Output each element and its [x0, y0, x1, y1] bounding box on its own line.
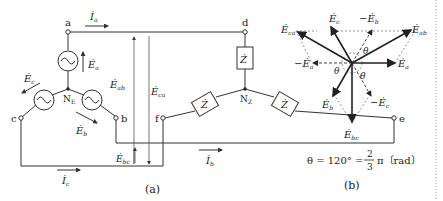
terminal-c — [19, 116, 23, 120]
circuit-diagram-a: a d İa Ėa NE c Ėc b Ėb — [11, 11, 405, 196]
node-b-label: b — [121, 113, 127, 124]
terminal-b — [114, 116, 118, 120]
theta-label-1: θ — [363, 46, 369, 56]
ac-symbol-icon — [61, 58, 75, 64]
phasor-neg-eb-label: −Ėb — [359, 13, 379, 25]
emf-ec-label: Ėc — [23, 73, 35, 85]
node-f-label: f — [155, 113, 160, 124]
terminal-e — [392, 116, 396, 120]
phasor-ea-label: Ėa — [397, 58, 409, 70]
phasor-neg-ec-label: −Ėc — [370, 97, 390, 109]
phasor-ec-label: Ėc — [328, 13, 340, 25]
emf-ea-label: Ėa — [87, 59, 99, 71]
theta-label-2: θ — [334, 66, 340, 76]
emf-eb-label: Ėb — [75, 125, 87, 137]
current-ib-label: İb — [205, 155, 214, 167]
node-d-label: d — [242, 17, 249, 28]
voltage-ebc-label: Ėbc — [115, 153, 130, 165]
formula-denominator: 3 — [367, 162, 373, 172]
three-phase-circuit-figure: a d İa Ėa NE c Ėc b Ėb — [0, 0, 443, 201]
ac-symbol-icon — [85, 97, 99, 103]
node-e-label: e — [399, 113, 405, 124]
phasor-eab-label: Ėab — [411, 24, 427, 36]
impedance-z-f: Ż — [191, 92, 218, 117]
neutral-ne-label: NE — [63, 94, 75, 105]
phasor-eca-label: Ėca — [280, 24, 296, 36]
caption-b: (b) — [344, 179, 360, 192]
phasor-eb-label: Ėb — [321, 99, 333, 111]
terminal-d — [243, 30, 247, 34]
emf-eb-arrow — [76, 112, 97, 123]
node-a-label: a — [65, 17, 71, 28]
terminal-f — [161, 116, 165, 120]
caption-a: (a) — [145, 183, 160, 196]
voltage-eab-label: Ėab — [109, 79, 125, 91]
svg-text:Ż: Ż — [280, 99, 289, 110]
ac-symbol-icon — [37, 97, 51, 103]
impedance-z-e: Ż — [271, 92, 298, 117]
phasor-diagram-b: Ėa Ėc Ėb −Ėa −Ėb −Ėc Ėab Ėca Ėbc θ θ θ θ… — [280, 13, 427, 192]
impedance-label: Ż — [239, 54, 248, 65]
formula-rhs: π〔rad〕 — [377, 155, 421, 166]
neutral-nz-label: NZ — [240, 94, 252, 105]
theta-label-3: θ — [360, 71, 366, 81]
node-c-label: c — [11, 113, 17, 124]
current-ia-label: İa — [89, 11, 98, 23]
terminal-a — [66, 30, 70, 34]
voltage-eca-label: Ėca — [150, 86, 166, 98]
current-ic-label: İc — [61, 175, 70, 187]
formula-lhs: θ = 120° = — [307, 155, 363, 166]
phasor-ebc-label: Ėbc — [343, 129, 359, 141]
formula-numerator: 2 — [367, 149, 373, 159]
svg-text:Ż: Ż — [200, 99, 209, 110]
